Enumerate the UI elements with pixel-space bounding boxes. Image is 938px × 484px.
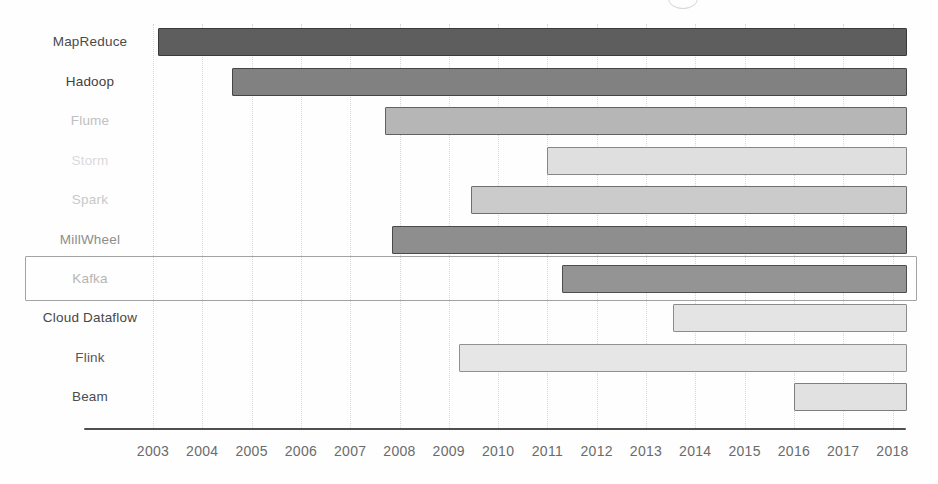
row-label-mapreduce: MapReduce — [15, 34, 165, 49]
timeline-bar-millwheel — [392, 226, 907, 254]
year-tick-2004: 2004 — [178, 443, 226, 459]
row-label-flume: Flume — [15, 113, 165, 128]
year-tick-2005: 2005 — [228, 443, 276, 459]
timeline-bar-cloud-dataflow — [673, 304, 907, 332]
year-tick-2016: 2016 — [770, 443, 818, 459]
year-tick-2014: 2014 — [671, 443, 719, 459]
timeline-chart: MapReduceHadoopFlumeStormSparkMillWheelK… — [0, 0, 938, 484]
timeline-bar-spark — [471, 186, 907, 214]
year-tick-2015: 2015 — [721, 443, 769, 459]
year-tick-2006: 2006 — [277, 443, 325, 459]
year-tick-2013: 2013 — [622, 443, 670, 459]
scanned-figure-page: MapReduceHadoopFlumeStormSparkMillWheelK… — [0, 0, 938, 484]
timeline-bar-flink — [459, 344, 908, 372]
row-label-storm: Storm — [15, 153, 165, 168]
row-label-flink: Flink — [15, 350, 165, 365]
year-tick-2008: 2008 — [376, 443, 424, 459]
year-tick-2010: 2010 — [474, 443, 522, 459]
timeline-bar-storm — [547, 147, 907, 175]
row-label-beam: Beam — [15, 389, 165, 404]
timeline-bar-mapreduce — [158, 28, 907, 56]
year-tick-2018: 2018 — [869, 443, 917, 459]
row-label-cloud-dataflow: Cloud Dataflow — [15, 310, 165, 325]
row-label-kafka: Kafka — [15, 271, 165, 286]
year-tick-2017: 2017 — [819, 443, 867, 459]
row-label-hadoop: Hadoop — [15, 74, 165, 89]
timeline-bar-kafka — [562, 265, 907, 293]
timeline-bar-hadoop — [232, 68, 907, 96]
gridline-2004 — [202, 24, 203, 428]
year-tick-2012: 2012 — [573, 443, 621, 459]
timeline-bar-beam — [794, 383, 907, 411]
year-tick-2009: 2009 — [425, 443, 473, 459]
timeline-bar-flume — [385, 107, 908, 135]
row-label-spark: Spark — [15, 192, 165, 207]
year-tick-2011: 2011 — [523, 443, 571, 459]
x-axis-line — [84, 428, 906, 430]
year-tick-2003: 2003 — [129, 443, 177, 459]
year-tick-2007: 2007 — [326, 443, 374, 459]
row-label-millwheel: MillWheel — [15, 232, 165, 247]
